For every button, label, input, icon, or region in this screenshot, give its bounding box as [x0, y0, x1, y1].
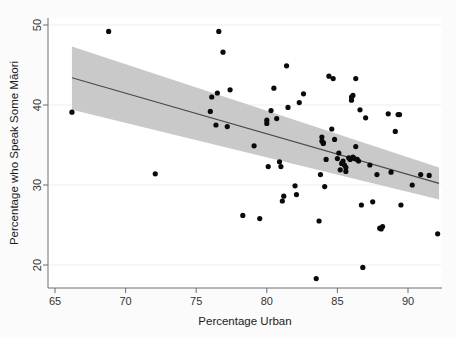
data-point	[266, 164, 271, 169]
data-point	[220, 50, 225, 55]
x-tick-label: 70	[119, 295, 131, 307]
data-point	[216, 29, 221, 34]
data-point	[321, 140, 326, 145]
y-tick-label: 30	[31, 179, 43, 191]
data-point	[297, 100, 302, 105]
data-point	[213, 122, 218, 127]
data-point	[268, 108, 273, 113]
scatter-plot-figure: 657075808590 20304050 Percentage Urban P…	[0, 0, 456, 338]
x-tick-label: 90	[402, 295, 414, 307]
data-point	[280, 198, 285, 203]
data-point	[397, 112, 402, 117]
data-point	[353, 144, 358, 149]
data-point	[225, 124, 230, 129]
data-point	[338, 167, 343, 172]
data-point	[329, 126, 334, 131]
data-point	[353, 76, 358, 81]
data-point	[208, 109, 213, 114]
data-point	[281, 194, 286, 199]
data-point	[357, 107, 362, 112]
data-point	[349, 98, 354, 103]
data-point	[350, 93, 355, 98]
data-point	[388, 170, 393, 175]
data-point	[418, 172, 423, 177]
chart-svg: 657075808590 20304050 Percentage Urban P…	[0, 0, 456, 338]
data-point	[356, 158, 361, 163]
data-point	[331, 76, 336, 81]
data-point	[319, 134, 324, 139]
data-point	[360, 265, 365, 270]
x-tick-label: 85	[331, 295, 343, 307]
data-point	[69, 110, 74, 115]
data-point	[410, 182, 415, 187]
data-point	[335, 156, 340, 161]
data-point	[251, 143, 256, 148]
data-point	[370, 199, 375, 204]
x-axis-title: Percentage Urban	[198, 315, 291, 327]
data-point	[343, 165, 348, 170]
data-point	[278, 164, 283, 169]
data-point	[322, 184, 327, 189]
data-point	[393, 129, 398, 134]
data-point	[274, 116, 279, 121]
data-point	[153, 171, 158, 176]
y-tick-label: 50	[31, 19, 43, 31]
data-point	[359, 202, 364, 207]
y-tick-label: 20	[31, 259, 43, 271]
data-point	[374, 172, 379, 177]
x-tick-label: 75	[190, 295, 202, 307]
data-point	[227, 87, 232, 92]
data-point	[240, 213, 245, 218]
data-point	[336, 150, 341, 155]
data-point	[284, 63, 289, 68]
data-point	[386, 111, 391, 116]
data-point	[314, 276, 319, 281]
y-axis-title: Percentage who Speak Some Māori	[8, 61, 20, 245]
data-point	[277, 159, 282, 164]
x-tick-label: 65	[49, 295, 61, 307]
data-point	[427, 173, 432, 178]
y-tick-label: 40	[31, 99, 43, 111]
data-point	[106, 29, 111, 34]
data-point	[324, 157, 329, 162]
data-point	[398, 202, 403, 207]
data-point	[294, 192, 299, 197]
data-point	[367, 162, 372, 167]
data-point	[318, 172, 323, 177]
data-point	[209, 94, 214, 99]
data-point	[435, 231, 440, 236]
data-point	[301, 91, 306, 96]
data-point	[264, 118, 269, 123]
data-point	[292, 183, 297, 188]
data-point	[316, 218, 321, 223]
data-point	[380, 224, 385, 229]
data-point	[257, 216, 262, 221]
data-point	[285, 105, 290, 110]
data-point	[332, 137, 337, 142]
x-tick-label: 80	[261, 295, 273, 307]
data-point	[363, 115, 368, 120]
data-point	[215, 90, 220, 95]
data-point	[271, 86, 276, 91]
